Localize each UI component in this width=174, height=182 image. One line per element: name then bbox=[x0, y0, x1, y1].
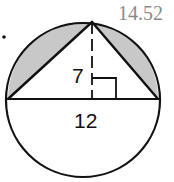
height-label: 7 bbox=[72, 64, 84, 87]
base-label: 12 bbox=[74, 109, 97, 132]
bullet-dot bbox=[2, 35, 6, 39]
right-angle-marker bbox=[92, 78, 116, 99]
circle-triangle-diagram: 7 12 bbox=[0, 0, 174, 182]
